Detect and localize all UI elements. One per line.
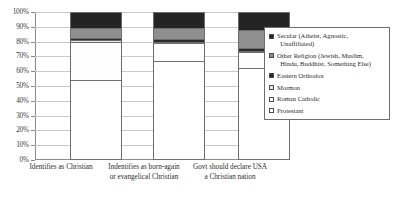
y-tick-mark bbox=[31, 71, 35, 72]
bar-segment-protestant bbox=[70, 80, 122, 160]
xtick-label-born-again: Indentifies as born-again or evangelical… bbox=[96, 163, 192, 182]
y-tick-label: 100% bbox=[13, 8, 29, 16]
xtick-line-1: Govt should declare USA bbox=[182, 163, 278, 173]
gridline bbox=[35, 42, 260, 43]
y-tick-label: 90% bbox=[16, 23, 29, 31]
y-tick-mark bbox=[31, 160, 35, 161]
xtick-line-2: or evangelical Christian bbox=[96, 173, 192, 183]
xtick-line-2: a Christian nation bbox=[182, 173, 278, 183]
y-tick-label: 10% bbox=[16, 141, 29, 149]
xtick-line-1: Identifies as Christian bbox=[13, 163, 109, 173]
gridline bbox=[35, 145, 260, 146]
y-tick-mark bbox=[31, 101, 35, 102]
y-tick-label: 80% bbox=[16, 38, 29, 46]
legend-swatch-icon bbox=[269, 85, 274, 90]
legend-swatch-icon bbox=[269, 97, 274, 102]
xtick-label-identifies-as-christian: Identifies as Christian bbox=[13, 163, 109, 173]
y-tick-mark bbox=[31, 130, 35, 131]
gridline bbox=[35, 56, 260, 57]
legend-item-label: Mormon bbox=[277, 84, 300, 92]
bar-segment-protestant bbox=[153, 61, 205, 160]
legend-item-other-religion[interactable]: Other Religion (Jewish, Muslim, Hindu, B… bbox=[268, 52, 386, 68]
y-tick-mark bbox=[31, 56, 35, 57]
y-tick-label: 50% bbox=[16, 82, 29, 90]
gridline bbox=[35, 27, 260, 28]
chart-legend: Secular (Atheist, Agnostic, Unaffiliated… bbox=[264, 27, 390, 120]
legend-item-secular[interactable]: Secular (Atheist, Agnostic, Unaffiliated… bbox=[268, 32, 386, 48]
gridline bbox=[35, 71, 260, 72]
gridline bbox=[35, 130, 260, 131]
xtick-line-1: Indentifies as born-again bbox=[96, 163, 192, 173]
y-tick-label: 60% bbox=[16, 67, 29, 75]
y-tick-label: 40% bbox=[16, 97, 29, 105]
legend-item-label: Roman Catholic bbox=[277, 95, 320, 103]
gridline bbox=[35, 12, 260, 13]
legend-item-protestant[interactable]: Protestant bbox=[268, 107, 386, 115]
bar-segment-other-religion bbox=[153, 28, 205, 39]
gridline bbox=[35, 116, 260, 117]
y-tick-label: 20% bbox=[16, 126, 29, 134]
y-tick-label: 70% bbox=[16, 52, 29, 60]
y-tick-mark bbox=[31, 42, 35, 43]
legend-swatch-icon bbox=[269, 53, 274, 58]
bar-segment-secular bbox=[153, 12, 205, 28]
bar-segment-other-religion bbox=[70, 28, 122, 38]
bar-segment-roman-catholic bbox=[153, 43, 205, 61]
legend-swatch-icon bbox=[269, 34, 274, 39]
legend-item-eastern-orthodox[interactable]: Eastern Orthodox bbox=[268, 72, 386, 80]
bar-1 bbox=[70, 12, 122, 160]
legend-item-label: Protestant bbox=[277, 107, 303, 115]
bar-segment-roman-catholic bbox=[70, 42, 122, 80]
legend-swatch-icon bbox=[269, 108, 274, 113]
plot-area: 100%90%80%70%60%50%40%30%20%10%0% bbox=[35, 12, 260, 160]
y-tick-mark bbox=[31, 27, 35, 28]
y-tick-mark bbox=[31, 12, 35, 13]
bar-segment-secular bbox=[70, 12, 122, 28]
legend-item-label: Other Religion (Jewish, Muslim, Hindu, B… bbox=[277, 52, 371, 68]
xtick-label-govt-declare: Govt should declare USA a Christian nati… bbox=[182, 163, 278, 182]
y-tick-mark bbox=[31, 145, 35, 146]
legend-item-mormon[interactable]: Mormon bbox=[268, 84, 386, 92]
bar-2 bbox=[153, 12, 205, 160]
legend-item-roman-catholic[interactable]: Roman Catholic bbox=[268, 95, 386, 103]
legend-item-label: Eastern Orthodox bbox=[277, 72, 324, 80]
legend-swatch-icon bbox=[269, 73, 274, 78]
y-tick-mark bbox=[31, 116, 35, 117]
y-tick-mark bbox=[31, 86, 35, 87]
legend-item-label: Secular (Atheist, Agnostic, Unaffiliated… bbox=[277, 32, 348, 48]
gridline bbox=[35, 86, 260, 87]
stacked-bar-chart-figure: 100%90%80%70%60%50%40%30%20%10%0% Identi… bbox=[0, 0, 395, 201]
y-tick-label: 30% bbox=[16, 112, 29, 120]
gridline bbox=[35, 101, 260, 102]
